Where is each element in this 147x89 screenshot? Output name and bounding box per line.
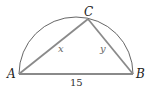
semicircle-triangle-diagram: A B C x y 15 xyxy=(0,0,147,89)
label-a: A xyxy=(6,67,16,81)
label-y: y xyxy=(99,43,106,54)
label-x: x xyxy=(58,43,64,54)
label-c: C xyxy=(84,5,93,19)
label-15: 15 xyxy=(70,77,83,88)
side-ac xyxy=(19,19,88,74)
semicircle-arc xyxy=(19,17,133,74)
label-b: B xyxy=(135,67,145,81)
